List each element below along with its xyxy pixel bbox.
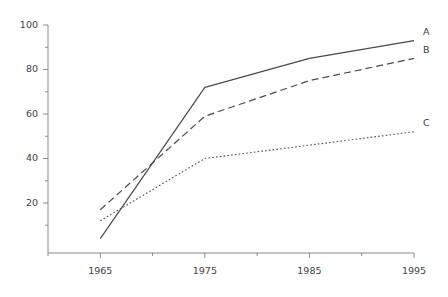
y-axis-major-ticks <box>43 25 48 203</box>
y-tick-label: 80 <box>26 63 38 74</box>
x-tick-label: 1965 <box>88 265 112 276</box>
x-tick-label: 1985 <box>297 265 321 276</box>
series-label: A <box>423 26 430 37</box>
x-axis-tick-labels: 1965197519851995 <box>88 265 426 276</box>
y-tick-label: 60 <box>26 108 38 119</box>
y-axis-tick-labels: 20406080100 <box>20 19 38 208</box>
series-label: C <box>423 117 430 128</box>
x-tick-label: 1995 <box>402 265 426 276</box>
y-axis: 20406080100 <box>20 19 48 254</box>
series-label-group: ABC <box>423 26 430 128</box>
series-line <box>100 132 414 221</box>
y-tick-label: 20 <box>26 197 38 208</box>
y-tick-label: 100 <box>20 19 38 30</box>
y-tick-label: 40 <box>26 152 38 163</box>
data-series-group <box>100 41 414 239</box>
x-axis: 1965197519851995 <box>48 253 426 276</box>
series-label: B <box>423 44 430 55</box>
line-chart: 20406080100 1965197519851995 ABC <box>0 0 448 297</box>
series-line <box>100 58 414 209</box>
series-line <box>100 41 414 239</box>
chart-canvas: 20406080100 1965197519851995 ABC <box>0 0 448 297</box>
x-tick-label: 1975 <box>193 265 217 276</box>
